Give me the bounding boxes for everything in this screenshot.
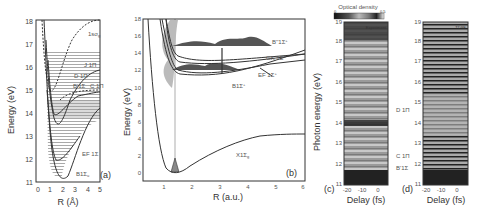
svg-text:3: 3 [73, 186, 77, 193]
svg-text:15: 15 [25, 87, 33, 94]
svg-text:4: 4 [86, 186, 90, 193]
svg-text:19: 19 [414, 19, 421, 25]
svg-text:1: 1 [162, 184, 166, 190]
svg-text:13: 13 [414, 140, 421, 146]
svg-text:-10: -10 [358, 187, 367, 193]
panel-b-ylabel: Energy (eV) [122, 88, 132, 136]
svg-text:6: 6 [301, 184, 305, 190]
svg-text:-10: -10 [437, 187, 446, 193]
svg-text:15: 15 [414, 99, 421, 105]
svg-text:0: 0 [376, 187, 380, 193]
svg-text:8: 8 [138, 102, 142, 108]
panel-b-xlabel: R (a.u.) [213, 192, 243, 202]
svg-text:-20: -20 [343, 187, 352, 193]
label-B: B1Σ+ [232, 82, 246, 89]
label-B-double-prime: B''1Σ+ [272, 38, 288, 45]
svg-text:1: 1 [48, 186, 52, 193]
svg-text:16: 16 [335, 79, 342, 85]
svg-text:2: 2 [190, 184, 194, 190]
label-C-Pi: C 1Π [90, 83, 104, 89]
panel-d-yticks: 11 12 13 14 15 16 17 18 19 [414, 19, 421, 187]
panel-d-xlabel: Delay (fs) [427, 195, 466, 205]
label-D-Pi: D 1Π [74, 73, 88, 79]
panel-c: Optical density 0 0.5 Photon energy (eV)… [312, 4, 410, 205]
svg-text:3: 3 [218, 184, 222, 190]
svg-text:2: 2 [61, 186, 65, 193]
svg-text:13: 13 [335, 140, 342, 146]
panel-a-xticks: 0 1 2 3 4 5 [36, 186, 102, 193]
panel-b-yticks: 0 2 4 6 8 10 12 14 16 18 [134, 16, 141, 176]
svg-text:18: 18 [25, 18, 33, 25]
svg-text:5: 5 [98, 186, 102, 193]
label-B-Sigma-u: B1Σu [76, 171, 89, 178]
svg-text:14: 14 [134, 50, 141, 56]
svg-text:11: 11 [415, 181, 422, 187]
svg-text:16: 16 [414, 79, 421, 85]
svg-text:17: 17 [414, 58, 421, 64]
label-GK: GK 1Σ+ [266, 54, 286, 61]
svg-text:19: 19 [335, 19, 342, 25]
panel-c-xticks: -20 -10 0 [343, 187, 381, 193]
svg-text:4: 4 [246, 184, 250, 190]
svg-text:0: 0 [138, 170, 142, 176]
svg-text:0: 0 [455, 187, 459, 193]
svg-text:14: 14 [25, 110, 33, 117]
svg-text:10: 10 [134, 85, 141, 91]
panel-b-tag: (b) [286, 168, 297, 178]
svg-text:12: 12 [414, 161, 421, 167]
svg-text:17: 17 [25, 41, 33, 48]
svg-text:16: 16 [25, 64, 33, 71]
svg-text:14: 14 [335, 120, 342, 126]
svg-text:16: 16 [134, 33, 141, 39]
colorbar-label: Optical density [338, 4, 377, 10]
panel-c-title: Experiment [366, 25, 387, 30]
label-D-Pi-u: D 1Π [396, 107, 410, 113]
svg-text:12: 12 [134, 67, 141, 73]
panel-a: Energy (eV) 11 12 13 14 15 16 17 18 0 1 … [6, 18, 111, 207]
label-B-prime-Sigma: B'1Σ [73, 83, 85, 89]
panel-a-yticks: 11 12 13 14 15 16 17 18 [25, 18, 33, 186]
label-EF-Sigma: EF 1Σ [82, 151, 99, 157]
panel-a-xlabel: R (Å) [58, 197, 79, 207]
svg-text:2: 2 [138, 153, 142, 159]
svg-text:12: 12 [25, 156, 33, 163]
panel-d: TDSE 11 12 13 14 15 16 17 18 19 -20 -10 … [402, 19, 468, 205]
svg-text:13: 13 [25, 133, 33, 140]
svg-text:12: 12 [335, 161, 342, 167]
panel-c-ylabel: Photon energy (eV) [312, 73, 322, 151]
svg-text:0: 0 [36, 186, 40, 193]
panel-a-tag: (a) [100, 170, 111, 180]
panel-b-xticks: 1 2 3 4 5 6 [162, 184, 305, 190]
panel-c-tag: (c) [324, 184, 335, 194]
panel-a-ylabel: Energy (eV) [6, 86, 16, 134]
svg-text:18: 18 [414, 38, 421, 44]
svg-text:18: 18 [134, 16, 141, 22]
label-X: X1Σg [236, 152, 249, 159]
svg-text:14: 14 [414, 120, 421, 126]
panel-d-xticks: -20 -10 0 [422, 187, 460, 193]
label-B-prime-Sigma-u: B'1Σ [396, 165, 408, 171]
label-C-Pi-u: C 1Π [396, 153, 410, 159]
panel-d-title: TDSE [455, 25, 466, 30]
svg-text:17: 17 [335, 58, 342, 64]
panel-b: Energy (eV) 0 2 4 6 8 10 12 14 16 18 [122, 16, 305, 202]
svg-text:4: 4 [138, 136, 142, 142]
label-J-Pi: J 1Π [84, 62, 96, 68]
label-1s-sigma-g: 1sσg [88, 31, 100, 38]
svg-text:11: 11 [26, 179, 33, 186]
svg-text:15: 15 [335, 99, 342, 105]
svg-text:5: 5 [274, 184, 278, 190]
panel-d-tag: (d) [402, 184, 413, 194]
svg-text:-20: -20 [422, 187, 431, 193]
svg-text:0.5: 0.5 [380, 9, 386, 14]
label-EF: EF 1Σ+ [258, 71, 277, 78]
panel-c-yticks: 11 12 13 14 15 16 17 18 19 [335, 19, 342, 187]
figure: Energy (eV) 11 12 13 14 15 16 17 18 0 1 … [0, 0, 480, 219]
svg-text:11: 11 [336, 181, 343, 187]
svg-text:18: 18 [335, 38, 342, 44]
svg-text:6: 6 [138, 119, 142, 125]
panel-c-xlabel: Delay (fs) [347, 195, 386, 205]
